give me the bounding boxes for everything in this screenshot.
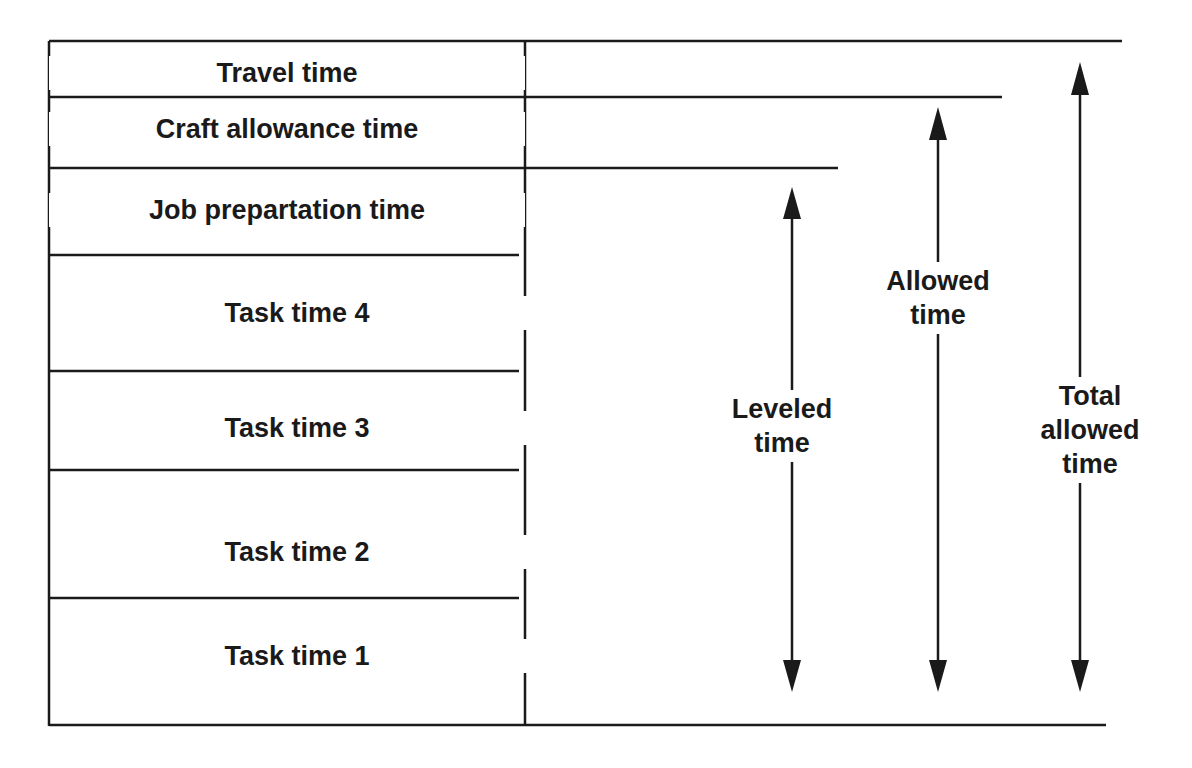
row-job-preparation-time: Job prepartation time xyxy=(49,193,525,227)
allowed-up-arrow xyxy=(929,107,947,140)
row-task-time-4: Task time 4 xyxy=(59,296,535,330)
leveled-time-label: Leveled time xyxy=(712,390,852,462)
row-task-time-3: Task time 3 xyxy=(59,411,535,445)
leveled-up-arrow xyxy=(783,187,801,219)
total-up-arrow xyxy=(1071,62,1089,95)
row-task-time-1: Task time 1 xyxy=(59,639,535,673)
row-travel-time: Travel time xyxy=(49,56,525,90)
total-down-arrow xyxy=(1071,660,1089,692)
allowed-down-arrow xyxy=(929,660,947,692)
allowed-time-label: Allowed time xyxy=(868,262,1008,334)
leveled-down-arrow xyxy=(783,660,801,692)
total-allowed-time-label: Total allowed time xyxy=(1020,377,1160,483)
row-craft-allowance-time: Craft allowance time xyxy=(49,112,525,146)
row-task-time-2: Task time 2 xyxy=(59,535,535,569)
